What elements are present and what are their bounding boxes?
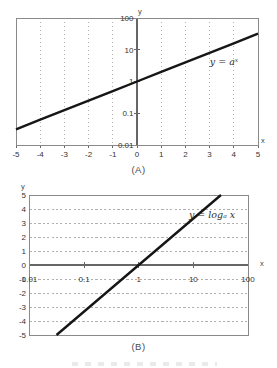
chart-a: -5-4-3-2-10123451001010.10.01 [12, 14, 260, 159]
y-tick-label: 10 [125, 46, 134, 55]
x-tick-label: 1 [159, 150, 164, 159]
y-tick-label: 0.1 [122, 109, 134, 118]
y-tick-label: -4 [19, 317, 27, 326]
chart-b-y-axis-title: y [21, 182, 25, 191]
chart-b-caption: (B) [0, 341, 277, 352]
chart-a-y-axis-title: y [138, 7, 142, 16]
x-tick-label: -5 [12, 150, 20, 159]
chart-a-x-axis-title: x [261, 136, 265, 145]
x-tick-label: -3 [61, 150, 69, 159]
chart-b-x-axis-title: x [260, 259, 264, 268]
x-tick-label: 0.01 [22, 275, 38, 284]
x-tick-label: 1 [137, 275, 142, 284]
x-tick-label: -4 [37, 150, 45, 159]
y-tick-label: 2 [22, 233, 27, 242]
x-tick-label: 2 [183, 150, 188, 159]
x-tick-label: 0 [135, 150, 140, 159]
chart-a-caption: (A) [0, 164, 277, 175]
page: -5-4-3-2-10123451001010.10.01543210-1-2-… [0, 0, 277, 368]
y-tick-label: 1 [22, 247, 27, 256]
x-tick-label: 5 [256, 150, 261, 159]
x-tick-label: -1 [109, 150, 117, 159]
y-tick-label: -5 [19, 331, 27, 340]
cropped-text-remnant [72, 362, 217, 366]
y-tick-label: 0 [22, 261, 27, 270]
y-tick-label: 4 [22, 205, 27, 214]
x-tick-label: 0.1 [79, 275, 91, 284]
x-tick-label: 100 [241, 275, 255, 284]
y-tick-label: 100 [120, 14, 134, 23]
y-tick-label: 5 [22, 191, 27, 200]
x-tick-label: -2 [85, 150, 93, 159]
x-tick-label: 10 [189, 275, 198, 284]
x-tick-label: 3 [207, 150, 212, 159]
y-tick-label: -3 [19, 303, 27, 312]
x-tick-label: 4 [232, 150, 237, 159]
y-tick-label: 0.01 [118, 141, 134, 150]
chart-b-formula-annotation: y = logₐ x [182, 209, 242, 221]
chart-a-formula-annotation: y = aˣ [194, 56, 254, 68]
y-tick-label: 3 [22, 219, 27, 228]
y-tick-label: -2 [19, 289, 27, 298]
